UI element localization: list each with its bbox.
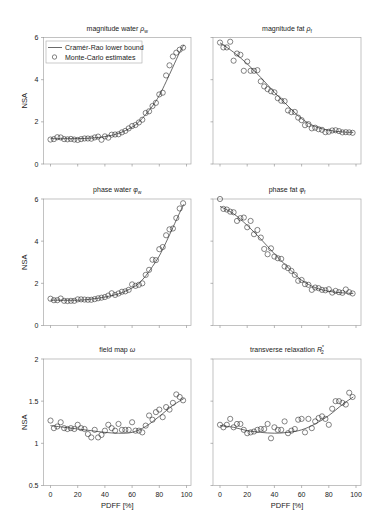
y-tick-label: 4 [35, 238, 39, 245]
title-subscript: w [138, 189, 142, 195]
title-symbol: ω [130, 346, 136, 353]
title-text: magnitude water [87, 25, 141, 33]
title-text: field map [99, 346, 129, 354]
x-axis-label: PDFF [%] [101, 501, 134, 510]
title-text: transverse relaxation [250, 346, 317, 353]
y-tick-label: 1 [35, 440, 39, 447]
x-tick-label: 20 [243, 491, 251, 498]
x-tick-label: 100 [181, 491, 193, 498]
x-tick-label: 60 [128, 491, 136, 498]
x-tick-label: 80 [155, 491, 163, 498]
title-subscript: w [144, 28, 148, 34]
x-tick-label: 20 [74, 491, 82, 498]
title-text: magnitude fat [262, 25, 306, 33]
title-text: phase fat [269, 186, 300, 194]
x-tick-label: 80 [325, 491, 333, 498]
title-text: phase water [93, 186, 133, 194]
x-tick-label: 100 [350, 491, 362, 498]
nsa-figure: magnitude water ρw0246NSACramér-Rao lowe… [0, 0, 383, 530]
y-tick-label: 6 [35, 196, 39, 203]
y-tick-label: 2 [35, 356, 39, 363]
y-tick-label: 0 [35, 161, 39, 168]
subplot-title: field map ω [99, 346, 135, 354]
y-axis-label: NSA [20, 93, 29, 108]
x-tick-label: 40 [101, 491, 109, 498]
title-subscript: 2 [321, 349, 324, 355]
legend-label-crlb: Cramér-Rao lower bound [65, 44, 144, 51]
x-tick-label: 0 [49, 491, 53, 498]
y-axis-label: NSA [20, 255, 29, 270]
x-tick-label: 40 [271, 491, 279, 498]
x-tick-label: 60 [298, 491, 306, 498]
legend: Cramér-Rao lower boundMonte-Carlo estima… [46, 41, 144, 63]
legend-label-monte-carlo: Monte-Carlo estimates [65, 54, 136, 61]
y-tick-label: 2 [35, 118, 39, 125]
y-tick-label: 1.5 [29, 398, 39, 405]
x-tick-label: 0 [218, 491, 222, 498]
y-tick-label: 4 [35, 76, 39, 83]
y-tick-label: 0.5 [29, 482, 39, 489]
y-tick-label: 0 [35, 322, 39, 329]
y-axis-label: NSA [20, 415, 29, 430]
y-tick-label: 2 [35, 280, 39, 287]
y-tick-label: 6 [35, 34, 39, 41]
figure-background [0, 0, 383, 530]
x-axis-label: PDFF [%] [271, 501, 304, 510]
